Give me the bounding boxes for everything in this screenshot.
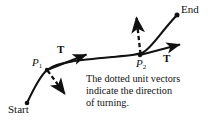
point-2-letter: P <box>136 57 143 69</box>
tangent-label-p2: T <box>163 53 170 64</box>
end-dot <box>175 13 180 18</box>
point-1-label: P1 <box>32 57 42 70</box>
normal-vector-p1 <box>48 71 65 94</box>
start-label: Start <box>8 104 29 115</box>
caption-text: The dotted unit vectors indicate the dir… <box>86 73 206 108</box>
tangent-vector-p1 <box>47 55 87 71</box>
caption-line-1: The dotted unit vectors <box>86 73 206 85</box>
vector-diagram-figure: Start End P1 P2 T T The dotted unit vect… <box>0 0 211 130</box>
end-label: End <box>181 4 199 15</box>
caption-line-2: indicate the direction <box>86 85 206 97</box>
point-1-letter: P <box>32 56 39 68</box>
normal-vector-p2 <box>137 18 141 54</box>
caption-line-3: of turning. <box>86 97 206 109</box>
point-2-subscript: 2 <box>143 63 147 71</box>
tangent-label-p1: T <box>57 44 64 55</box>
point-1-subscript: 1 <box>39 62 43 70</box>
point-2-label: P2 <box>136 58 146 71</box>
